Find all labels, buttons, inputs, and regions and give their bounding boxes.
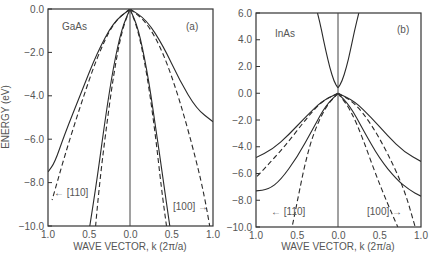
band-curve xyxy=(130,9,213,122)
band-curve xyxy=(130,9,170,226)
x-tick-label: 1.0 xyxy=(249,230,263,241)
x-tick-label: 1.0 xyxy=(414,230,428,241)
gaas-dir-right: [100] → xyxy=(173,201,208,212)
y-tick-label: −8.0 xyxy=(232,195,252,206)
inas-x-ticks: 1.00.50.00.51.0 xyxy=(249,230,428,241)
y-tick-label: 2.0 xyxy=(238,61,252,72)
inas-dir-left: ← [110] xyxy=(271,206,305,217)
inas-material-label: InAs xyxy=(275,28,295,39)
band-curve xyxy=(338,93,421,196)
gaas-y-ticks: 0.0−2.0−4.0−6.0−8.0−10.0 xyxy=(19,4,52,232)
y-tick-label: −2.0 xyxy=(24,47,44,58)
inas-x-axis-label: WAVE VECTOR, k (2π/a) xyxy=(281,241,394,252)
inas-dir-right: [100] → xyxy=(367,206,402,217)
band-curve xyxy=(90,9,130,226)
band-structure-figure: 0.0−2.0−4.0−6.0−8.0−10.0 1.00.50.00.51.0… xyxy=(0,0,429,255)
y-tick-label: −6.0 xyxy=(232,168,252,179)
y-axis-label: ENERGY (eV) xyxy=(0,85,11,149)
band-curve xyxy=(130,9,167,226)
inas-y-ticks: 6.04.02.00.0−2.0−4.0−6.0−8.0−10.0 xyxy=(227,8,260,233)
band-curve xyxy=(48,9,130,172)
y-tick-label: −6.0 xyxy=(24,134,44,145)
y-tick-label: 0.0 xyxy=(30,4,44,15)
y-tick-label: 6.0 xyxy=(238,8,252,19)
band-curve xyxy=(256,93,338,157)
gaas-panel-label: (a) xyxy=(186,21,198,32)
x-tick-label: 0.5 xyxy=(290,230,304,241)
x-tick-label: 0.5 xyxy=(373,230,387,241)
y-tick-label: 0.0 xyxy=(238,88,252,99)
band-curve xyxy=(318,13,339,88)
x-tick-label: 1.0 xyxy=(41,229,55,240)
y-tick-label: −4.0 xyxy=(232,141,252,152)
band-curve xyxy=(130,9,210,226)
y-tick-label: −4.0 xyxy=(24,90,44,101)
panel-gaas: 0.0−2.0−4.0−6.0−8.0−10.0 1.00.50.00.51.0… xyxy=(0,4,220,253)
panel-inas: 6.04.02.00.0−2.0−4.0−6.0−8.0−10.0 1.00.5… xyxy=(227,8,429,253)
gaas-x-axis-label: WAVE VECTOR, k (2π/a) xyxy=(73,241,186,252)
inas-panel-label: (b) xyxy=(397,24,409,35)
x-tick-label: 0.0 xyxy=(124,229,138,240)
band-curve xyxy=(338,93,421,161)
y-tick-label: 4.0 xyxy=(238,34,252,45)
gaas-x-ticks: 1.00.50.00.51.0 xyxy=(41,229,220,240)
band-curve xyxy=(52,9,130,200)
x-tick-label: 0.0 xyxy=(332,230,346,241)
gaas-dir-left: ← [110] xyxy=(54,187,88,198)
band-curve xyxy=(338,13,359,88)
x-tick-label: 0.5 xyxy=(82,229,96,240)
band-curve xyxy=(96,9,130,226)
gaas-material-label: GaAs xyxy=(62,21,87,32)
x-tick-label: 1.0 xyxy=(206,229,220,240)
y-tick-label: −2.0 xyxy=(232,115,252,126)
y-tick-label: −8.0 xyxy=(24,177,44,188)
x-tick-label: 0.5 xyxy=(165,229,179,240)
